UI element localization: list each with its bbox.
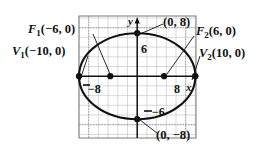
focus-left-point <box>107 73 113 79</box>
vertex-2-coords: (10, 0) <box>212 46 245 60</box>
vertex-1-coords: (−10, 0) <box>25 44 65 58</box>
tick-label-y-neg6: −6 <box>152 105 165 119</box>
y-axis-label: y <box>126 15 133 27</box>
vertex-1-label: V1(−10, 0) <box>12 44 65 60</box>
co-vertex-bottom-label: (0, −8) <box>156 128 190 142</box>
focus-1-coords: (−6, 0) <box>41 22 75 36</box>
co-vertex-top-point <box>134 30 140 36</box>
vertex-2-label: V2(10, 0) <box>199 46 245 62</box>
focus-2-coords: (6, 0) <box>209 24 236 38</box>
co-vertex-bottom-point <box>134 116 140 122</box>
vertex-left-point <box>76 73 82 79</box>
x-axis-label: x <box>185 81 192 93</box>
ellipse-figure: y x 6 −6 −8 8 F1(−6, 0) V1(−10, 0) F2(6,… <box>0 0 268 144</box>
tick-label-x-neg8: −8 <box>88 82 101 96</box>
figure-canvas: y x 6 −6 −8 8 F1(−6, 0) V1(−10, 0) F2(6,… <box>0 0 268 144</box>
focus-1-label: F1(−6, 0) <box>27 22 75 38</box>
focus-right-point <box>161 73 167 79</box>
co-vertex-top-label: (0, 8) <box>163 15 190 29</box>
tick-label-y-6: 6 <box>141 42 147 56</box>
vertex-right-point <box>192 73 198 79</box>
tick-label-x-8: 8 <box>174 82 180 96</box>
focus-2-label: F2(6, 0) <box>195 24 236 40</box>
